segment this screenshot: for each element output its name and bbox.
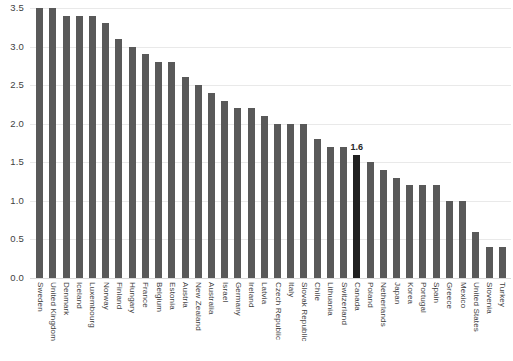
bar	[380, 170, 387, 278]
bar-slot	[430, 8, 443, 278]
bar-slot	[86, 8, 99, 278]
x-axis-category-label: Turkey	[496, 282, 508, 307]
x-label-slot: Turkey	[496, 280, 509, 361]
bar	[234, 108, 241, 278]
plot-area: 1.6	[30, 8, 511, 278]
x-axis-category-label: Luxembourg	[86, 282, 98, 328]
x-label-slot: Australia	[205, 280, 218, 361]
x-label-slot: France	[139, 280, 152, 361]
bar-slot	[231, 8, 244, 278]
x-label-slot: Luxembourg	[86, 280, 99, 361]
x-label-slot: Mexico	[456, 280, 469, 361]
x-label-slot: Ireland	[245, 280, 258, 361]
bar	[102, 23, 109, 278]
bar	[115, 39, 122, 278]
bar	[406, 185, 413, 278]
x-label-slot: Finland	[112, 280, 125, 361]
x-axis-category-label: Switzerland	[338, 282, 350, 325]
x-axis-category-label: France	[139, 282, 151, 308]
x-label-slot: New Zealand	[192, 280, 205, 361]
bar	[287, 124, 294, 278]
x-label-slot: Denmark	[59, 280, 72, 361]
bar	[486, 247, 493, 278]
x-axis-category-label: Lithuania	[324, 282, 336, 316]
x-label-slot: Switzerland	[337, 280, 350, 361]
x-axis-category-label: Netherlands	[377, 282, 389, 327]
x-label-slot: Hungary	[126, 280, 139, 361]
x-axis-labels: SwedenUnited KingdomDenmarkIcelandLuxemb…	[30, 280, 511, 361]
bar-slot	[377, 8, 390, 278]
x-label-slot: Lithuania	[324, 280, 337, 361]
bar-slot	[112, 8, 125, 278]
bar	[221, 101, 228, 278]
bar	[63, 16, 70, 278]
bar-slot	[284, 8, 297, 278]
x-axis-category-label: Finland	[113, 282, 125, 309]
bar-slot	[337, 8, 350, 278]
y-axis-tick-label: 3.5	[10, 3, 24, 13]
x-axis-category-label: Slovenia	[483, 282, 495, 314]
x-axis-category-label: Norway	[100, 282, 112, 310]
x-axis-category-label: Portugal	[417, 282, 429, 313]
x-axis-category-label: Iceland	[73, 282, 85, 309]
bar	[459, 201, 466, 278]
y-axis-tick-label: 2.0	[10, 119, 24, 129]
bar-slot	[33, 8, 46, 278]
bar-slot	[496, 8, 509, 278]
bar-slot	[482, 8, 495, 278]
bar	[472, 232, 479, 278]
bar	[446, 201, 453, 278]
bars-container: 1.6	[30, 8, 511, 278]
x-axis-category-label: Spain	[430, 282, 442, 303]
x-axis-category-label: Poland	[364, 282, 376, 308]
bar-slot	[165, 8, 178, 278]
bar-slot	[99, 8, 112, 278]
x-axis-category-label: United States	[470, 282, 482, 332]
x-axis-category-label: Denmark	[60, 282, 72, 316]
bar	[208, 93, 215, 278]
y-axis: 0.00.51.01.52.02.53.03.5	[0, 8, 28, 278]
x-axis-category-label: Canada	[351, 282, 363, 311]
x-label-slot: Latvia	[258, 280, 271, 361]
x-axis-category-label: Italy	[285, 282, 297, 297]
y-axis-tick-label: 0.0	[10, 273, 24, 283]
x-axis-category-label: New Zealand	[192, 282, 204, 331]
x-axis-category-label: Korea	[404, 282, 416, 304]
bar	[142, 54, 149, 278]
x-label-slot: Iceland	[73, 280, 86, 361]
bar-slot	[126, 8, 139, 278]
x-axis-category-label: Estonia	[166, 282, 178, 310]
bar-slot	[245, 8, 258, 278]
bar-slot	[178, 8, 191, 278]
x-label-slot: Belgium	[152, 280, 165, 361]
bar-slot	[469, 8, 482, 278]
bar-slot	[218, 8, 231, 278]
bar	[499, 247, 506, 278]
x-axis-category-label: Germany	[232, 282, 244, 316]
bar-slot	[46, 8, 59, 278]
x-label-slot: Israel	[218, 280, 231, 361]
bar	[340, 147, 347, 278]
bar	[327, 147, 334, 278]
y-axis-tick-label: 1.0	[10, 196, 24, 206]
bar-chart: 0.00.51.01.52.02.53.03.5 1.6 SwedenUnite…	[0, 0, 513, 361]
x-label-slot: Korea	[403, 280, 416, 361]
x-label-slot: Japan	[390, 280, 403, 361]
x-label-slot: Greece	[443, 280, 456, 361]
bar-slot	[73, 8, 86, 278]
bar	[433, 185, 440, 278]
bar-slot	[311, 8, 324, 278]
x-label-slot: Austria	[178, 280, 191, 361]
bar-slot	[271, 8, 284, 278]
x-label-slot: Netherlands	[377, 280, 390, 361]
x-axis-category-label: Chile	[311, 282, 323, 301]
bar-slot	[363, 8, 376, 278]
bar	[49, 8, 56, 278]
bar	[314, 139, 321, 278]
bar	[129, 47, 136, 278]
bar-slot	[205, 8, 218, 278]
x-label-slot: Italy	[284, 280, 297, 361]
bar-slot: 1.6	[350, 8, 363, 278]
x-label-slot: Sweden	[33, 280, 46, 361]
x-label-slot: Czech Republic	[271, 280, 284, 361]
